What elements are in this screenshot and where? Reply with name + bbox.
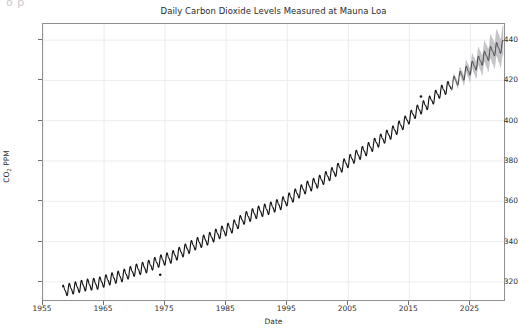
y-tick-mark — [38, 120, 42, 121]
axis-tick-layer: 320340360380400420440 195519651975198519… — [0, 0, 518, 334]
x-tick-mark — [347, 301, 348, 305]
x-tick-label: 1975 — [155, 304, 174, 313]
y-tick-label: 440 — [484, 35, 518, 44]
y-axis-label: CO2 PPM — [2, 137, 11, 197]
y-tick-mark — [38, 160, 42, 161]
y-tick-mark — [38, 241, 42, 242]
x-tick-label: 2005 — [338, 304, 357, 313]
x-tick-label: 1965 — [94, 304, 113, 313]
y-tick-mark — [38, 79, 42, 80]
x-tick-mark — [42, 301, 43, 305]
x-tick-mark — [286, 301, 287, 305]
y-tick-mark — [38, 281, 42, 282]
x-tick-mark — [469, 301, 470, 305]
x-tick-mark — [103, 301, 104, 305]
x-tick-mark — [408, 301, 409, 305]
y-tick-mark — [38, 200, 42, 201]
x-tick-mark — [225, 301, 226, 305]
y-tick-label: 340 — [484, 236, 518, 245]
y-tick-label: 400 — [484, 115, 518, 124]
y-tick-label: 360 — [484, 196, 518, 205]
x-tick-label: 2015 — [399, 304, 418, 313]
y-tick-label: 320 — [484, 276, 518, 285]
y-tick-mark — [38, 39, 42, 40]
matplotlib-figure: o p Daily Carbon Dioxide Levels Measured… — [0, 0, 518, 334]
x-tick-label: 2025 — [460, 304, 479, 313]
x-tick-label: 1995 — [277, 304, 296, 313]
x-tick-mark — [164, 301, 165, 305]
x-tick-label: 1955 — [32, 304, 51, 313]
y-tick-label: 380 — [484, 155, 518, 164]
x-axis-label: Date — [42, 317, 505, 326]
y-tick-label: 420 — [484, 75, 518, 84]
x-tick-label: 1985 — [216, 304, 235, 313]
